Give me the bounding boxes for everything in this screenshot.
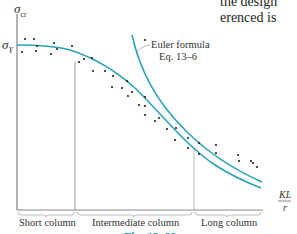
sigma-y-label: σY [2,38,13,55]
data-points [21,38,258,168]
region-label-intermediate: Intermediate column [92,218,179,229]
x-axis-label-numerator: KL [279,190,291,200]
figure-caption: Fig. 13–23 [124,231,177,234]
region-label-short: Short column [19,218,76,229]
euler-annotation-line-1: Euler formula [151,40,210,51]
body-text-line-1: the design [220,0,277,9]
euler-curve [132,35,262,182]
sigma-y-subscript: Y [8,46,12,55]
annotation-leader [137,45,150,52]
region-label-long: Long column [201,218,257,229]
euler-annotation-line-2: Eq. 13–6 [159,52,197,63]
x-axis-label-denominator: r [283,203,287,213]
column-buckling-diagram [0,0,297,234]
y-axis-subscript: cr [20,10,26,19]
body-text-line-2: erenced is [220,11,276,25]
y-axis-label: σcr [14,2,27,19]
fit-curve [17,45,261,188]
